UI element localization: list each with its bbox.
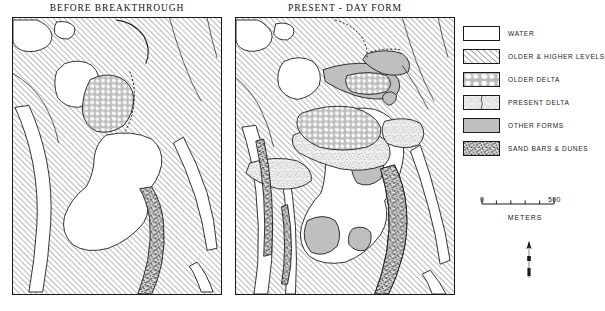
legend-swatch-sand-bars-dunes xyxy=(463,141,500,156)
legend-item-water: WATER xyxy=(463,24,603,43)
legend-label-older-delta: OLDER DELTA xyxy=(508,76,560,83)
legend-label-sand-bars-dunes: SAND BARS & DUNES xyxy=(508,145,588,152)
scale-bar xyxy=(480,195,570,209)
legend-item-older-higher-levels: OLDER & HIGHER LEVELS xyxy=(463,47,603,66)
map-right-svg xyxy=(236,18,454,294)
legend: WATER OLDER & HIGHER LEVELS OLDER DELTA … xyxy=(463,24,603,162)
legend-item-sand-bars-dunes: SAND BARS & DUNES xyxy=(463,139,603,158)
map-panel-before-breakthrough xyxy=(12,17,222,295)
map-panel-present-day-form xyxy=(235,17,455,295)
legend-label-water: WATER xyxy=(508,30,534,37)
scale-units-label: METERS xyxy=(480,214,570,221)
legend-label-present-delta: PRESENT DELTA xyxy=(508,99,570,106)
map-left-svg xyxy=(13,18,221,294)
legend-item-older-delta: OLDER DELTA xyxy=(463,70,603,89)
north-arrow-icon xyxy=(521,240,537,280)
legend-swatch-older-higher-levels xyxy=(463,49,500,64)
legend-swatch-present-delta xyxy=(463,95,500,110)
legend-swatch-water xyxy=(463,26,500,41)
legend-item-other-forms: OTHER FORMS xyxy=(463,116,603,135)
panel-title-before-breakthrough: BEFORE BREAKTHROUGH xyxy=(12,3,222,13)
panel-title-present-day-form: PRESENT - DAY FORM xyxy=(235,3,455,13)
legend-swatch-older-delta xyxy=(463,72,500,87)
figure-root: BEFORE BREAKTHROUGH PRESENT - DAY FORM xyxy=(0,0,605,311)
legend-item-present-delta: PRESENT DELTA xyxy=(463,93,603,112)
legend-swatch-other-forms xyxy=(463,118,500,133)
north-arrow-svg xyxy=(521,240,537,280)
legend-label-older-higher-levels: OLDER & HIGHER LEVELS xyxy=(508,53,605,60)
scale-bar-svg xyxy=(480,195,570,209)
legend-label-other-forms: OTHER FORMS xyxy=(508,122,564,129)
